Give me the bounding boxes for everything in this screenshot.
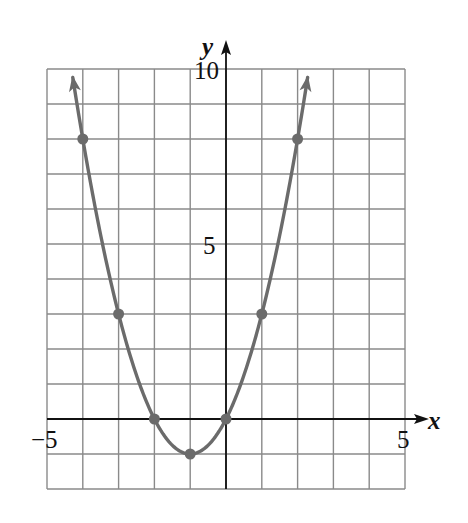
data-point <box>292 134 303 145</box>
data-point <box>185 449 196 460</box>
y-tick-5: 5 <box>203 233 216 258</box>
x-axis-label: x <box>428 408 441 433</box>
data-point <box>256 309 267 320</box>
data-point <box>77 134 88 145</box>
data-point <box>113 309 124 320</box>
data-point <box>149 414 160 425</box>
x-tick-5: 5 <box>397 427 410 452</box>
x-tick-neg5: −5 <box>31 427 58 452</box>
data-point <box>221 414 232 425</box>
y-tick-10: 10 <box>194 58 219 83</box>
y-axis-label: y <box>202 34 213 59</box>
